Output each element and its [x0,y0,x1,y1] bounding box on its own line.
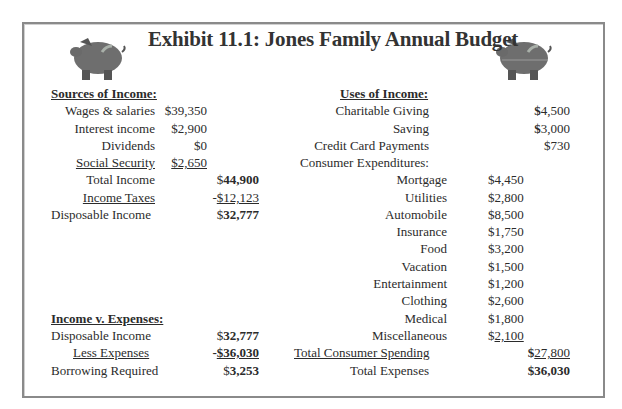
disposable-income-value: $32,777 [217,207,259,223]
use-label: Saving [393,121,429,137]
consumer-value: $1,200 [488,276,524,292]
use-value: $730 [544,138,570,154]
use-label: Charitable Giving [335,103,429,119]
total-consumer-spending-value: $27,800 [528,345,570,361]
source-value: $2,900 [171,121,207,137]
sources-header: Sources of Income: [51,86,157,102]
consumer-label: Utilities [405,190,447,206]
income-v-expenses-header: Income v. Expenses: [51,311,163,327]
income-taxes-label: Income Taxes [83,190,155,206]
consumer-label: Vacation [402,259,447,275]
income-taxes-value: -$12,123 [212,190,259,206]
consumer-label: Mortgage [396,172,447,188]
consumer-label: Automobile [385,207,447,223]
consumer-label: Miscellaneous [372,328,447,344]
piggy-bank-icon [66,34,128,84]
consumer-label: Insurance [396,224,447,240]
source-value: $0 [194,138,207,154]
total-consumer-spending-label: Total Consumer Spending [294,345,430,361]
source-label: Interest income [75,121,156,137]
less-expenses-value: -$36,030 [212,345,259,361]
use-label: Credit Card Payments [314,138,429,154]
consumer-value: $2,100 [488,328,524,344]
ive-disposable-label: Disposable Income [51,328,151,344]
consumer-label: Food [420,241,447,257]
disposable-income-label: Disposable Income [51,207,151,223]
less-expenses-label: Less Expenses [73,345,149,361]
consumer-value: $1,750 [488,224,524,240]
consumer-value: $2,800 [488,190,524,206]
page-title: Exhibit 11.1: Jones Family Annual Budget [148,27,518,52]
consumer-expenditures-header: Consumer Expenditures: [300,155,429,171]
total-income-label: Total Income [86,172,155,188]
consumer-value: $2,600 [488,293,524,309]
total-income-value: $44,900 [217,172,259,188]
consumer-label: Clothing [401,293,447,309]
source-label: Social Security [76,155,155,171]
source-label: Wages & salaries [65,103,155,119]
consumer-value: $4,450 [488,172,524,188]
borrowing-required-value: $3,253 [223,363,259,379]
consumer-value: $8,500 [488,207,524,223]
consumer-value: $1,800 [488,311,524,327]
total-expenses-label: Total Expenses [350,363,429,379]
consumer-label: Entertainment [373,276,447,292]
consumer-label: Medical [404,311,447,327]
source-value: $2,650 [171,155,207,171]
consumer-value: $1,500 [488,259,524,275]
total-expenses-value: $36,030 [528,363,570,379]
use-value: $4,500 [534,103,570,119]
use-value: $3,000 [534,121,570,137]
source-label: Dividends [102,138,155,154]
source-value: $39,350 [165,103,207,119]
ive-disposable-value: $32,777 [217,328,259,344]
uses-header: Uses of Income: [340,86,428,102]
consumer-value: $3,200 [488,241,524,257]
borrowing-required-label: Borrowing Required [51,363,158,379]
